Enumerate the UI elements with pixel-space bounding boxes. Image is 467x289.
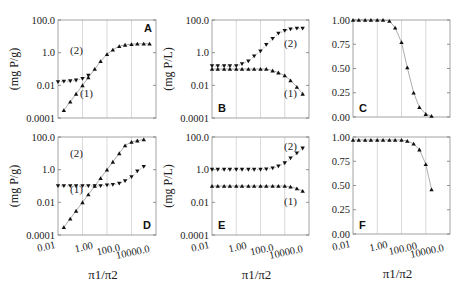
data-marker-triangle-down <box>74 79 78 83</box>
x-tick-label: 1.00 <box>227 240 247 255</box>
x-tick-label: 0.01 <box>190 239 210 254</box>
y-tick-label: 0.25 <box>332 87 350 98</box>
curve-label: (2) <box>284 37 297 50</box>
data-marker-triangle-down <box>105 184 109 188</box>
data-marker-triangle-up <box>111 48 115 52</box>
y-axis-label: (mg P/L) <box>161 164 175 208</box>
data-marker-triangle-up <box>424 162 428 166</box>
data-marker-triangle-down <box>111 183 115 187</box>
data-marker-triangle-up <box>111 160 115 164</box>
data-marker-triangle-down <box>276 165 280 169</box>
data-marker-triangle-up <box>399 40 403 44</box>
data-marker-triangle-down <box>283 29 287 33</box>
y-tick-label: 100.0 <box>31 132 55 143</box>
data-marker-triangle-down <box>252 168 256 172</box>
curve-label: (1) <box>284 195 297 208</box>
x-tick-label: 1.00 <box>74 240 94 255</box>
data-marker-triangle-up <box>105 168 109 172</box>
curve-label: (2) <box>70 147 83 160</box>
data-marker-triangle-down <box>210 64 214 68</box>
y-tick-label: 0.0001 <box>26 230 55 241</box>
data-marker-triangle-up <box>117 151 121 155</box>
data-marker-triangle-down <box>270 37 274 41</box>
x-tick-label: 0.01 <box>36 239 56 254</box>
y-tick-label: 1.0 <box>196 164 209 175</box>
panel-label: C <box>359 102 367 114</box>
data-marker-triangle-down <box>222 64 226 68</box>
data-marker-triangle-down <box>123 179 127 183</box>
y-tick-label: 0.75 <box>332 156 350 167</box>
data-marker-triangle-up <box>68 217 72 221</box>
curve-label: (2) <box>284 140 297 153</box>
panel-b: 100.01.00.010.0001(mg P/L)(2)(1)B <box>161 15 309 124</box>
panel-d: 100.01.00.010.0001(mg P/g)0.011.00100.01… <box>7 132 156 283</box>
panel-label: D <box>143 219 151 231</box>
y-tick-label: 0.0001 <box>180 230 209 241</box>
data-marker-triangle-down <box>246 59 250 63</box>
data-marker-triangle-down <box>222 168 226 172</box>
x-axis-label: π1/π2 <box>383 266 413 281</box>
data-marker-triangle-down <box>80 77 84 81</box>
data-marker-triangle-down <box>142 165 146 169</box>
data-marker-triangle-down <box>264 168 268 172</box>
curve-label: (1) <box>284 87 297 100</box>
data-marker-triangle-up <box>300 189 304 193</box>
y-tick-label: 1.0 <box>42 164 55 175</box>
panel-c: 1.000.750.500.250.00C <box>332 15 450 123</box>
y-axis-label: (mg P/g) <box>7 48 21 90</box>
y-tick-label: 0.50 <box>332 180 350 191</box>
data-marker-triangle-up <box>283 73 287 77</box>
y-tick-label: 0.01 <box>37 80 55 91</box>
data-marker-triangle-down <box>246 168 250 172</box>
figure: 100.01.00.010.0001(mg P/g)(2)(1)A100.01.… <box>0 0 467 289</box>
data-marker-triangle-up <box>86 193 90 197</box>
data-marker-triangle-down <box>56 80 60 84</box>
panel-f: 1.000.750.500.250.000.011.00100.0010000.… <box>331 132 450 282</box>
x-tick-label: 1.00 <box>368 239 388 254</box>
data-marker-triangle-up <box>98 176 102 180</box>
y-tick-label: 1.0 <box>196 47 209 58</box>
x-tick-label: 10000.0 <box>115 243 151 261</box>
data-marker-triangle-up <box>68 100 72 104</box>
panel-label: E <box>218 219 225 231</box>
y-tick-label: 0.50 <box>332 63 350 74</box>
data-marker-triangle-up <box>62 225 66 229</box>
data-marker-triangle-down <box>300 27 304 31</box>
data-marker-triangle-down <box>300 147 304 151</box>
y-tick-label: 1.0 <box>42 47 55 58</box>
x-tick-label: 10000.0 <box>268 243 304 261</box>
y-tick-label: 0.0001 <box>180 113 209 124</box>
y-tick-label: 100.0 <box>185 15 209 26</box>
data-marker-triangle-up <box>429 187 433 191</box>
x-tick-label: 0.01 <box>331 238 351 253</box>
data-marker-triangle-up <box>74 92 78 96</box>
y-tick-label: 100.0 <box>31 15 55 26</box>
data-marker-triangle-up <box>276 71 280 75</box>
data-marker-triangle-down <box>264 43 268 47</box>
y-tick-label: 0.25 <box>332 204 350 215</box>
curve-label: (2) <box>70 44 83 57</box>
data-marker-triangle-up <box>93 67 97 71</box>
y-tick-label: 1.00 <box>332 132 350 143</box>
y-tick-label: 0.01 <box>191 197 209 208</box>
y-tick-label: 100.0 <box>185 132 209 143</box>
y-axis-label: (mg P/g) <box>7 165 21 207</box>
data-marker-triangle-up <box>142 138 146 142</box>
data-marker-triangle-up <box>74 209 78 213</box>
panel-label: F <box>359 219 366 231</box>
data-marker-triangle-up <box>411 142 415 146</box>
data-marker-triangle-down <box>258 168 262 172</box>
x-axis-label: π1/π2 <box>242 267 272 282</box>
y-tick-label: 0.01 <box>191 80 209 91</box>
y-tick-label: 0.0001 <box>26 113 55 124</box>
data-marker-triangle-down <box>56 184 60 188</box>
data-marker-triangle-down <box>283 161 287 165</box>
y-tick-label: 1.00 <box>332 15 350 26</box>
data-marker-triangle-down <box>234 168 238 172</box>
data-marker-triangle-down <box>129 175 133 179</box>
data-marker-triangle-down <box>288 27 292 31</box>
data-marker-triangle-up <box>417 105 421 109</box>
y-axis-label: (mg P/L) <box>161 47 175 91</box>
data-marker-triangle-down <box>234 64 238 68</box>
panel-label: B <box>218 102 226 114</box>
